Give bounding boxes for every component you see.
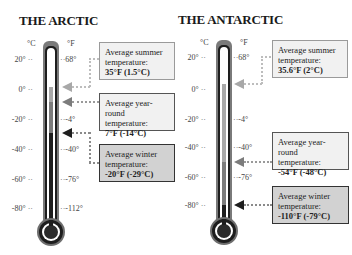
antarctic-winter-connector (244, 204, 272, 206)
arctic-winter-label2: temperature: (105, 159, 169, 169)
antarctic-summer-connector-v (261, 56, 263, 84)
arctic-summer-callout: Average summer temperature: 35°F (1.5°C) (99, 42, 175, 80)
arctic-tick-f-minus4: ··-4° (60, 116, 75, 124)
arctic-summer-connector (72, 86, 90, 88)
arctic-summer-value: 35°F (1.5°C) (105, 67, 169, 77)
antarctic-summer-connector (244, 83, 262, 85)
antarctic-yearround-value: -54°F (-48°C) (278, 167, 343, 177)
arctic-winter-value: -20°F (-29°C) (105, 169, 169, 179)
arctic-yearround-callout: Average year-round temperature: 7°F (-14… (99, 93, 175, 131)
arctic-tick-c-20: 20° ·· (7, 56, 33, 64)
antarctic-tick-c-minus80: -80° ·· (180, 202, 206, 210)
antarctic-celsius-label: °C (200, 38, 209, 47)
arctic-tick-f-minus76: ··-76° (60, 176, 79, 184)
antarctic-fill-summer (222, 84, 226, 163)
antarctic-fill-yearround (222, 162, 226, 206)
arctic-bulb-neck (49, 220, 53, 226)
antarctic-tick-c-minus60: -60° ·· (180, 174, 206, 182)
antarctic-yearround-callout: Average year-round temperature: -54°F (-… (272, 132, 349, 170)
arctic-winter-arrow-icon (62, 128, 72, 138)
antarctic-yearround-arrow-icon (234, 157, 244, 167)
antarctic-winter-callout: Average winter temperature: -110°F (-79°… (272, 186, 349, 224)
arctic-yearround-label: Average year-round (105, 98, 169, 118)
antarctic-tick-c-minus40: -40° ·· (180, 144, 206, 152)
antarctic-winter-arrow-icon (234, 200, 244, 210)
arctic-tick-f-minus40: ··-40° (60, 146, 79, 154)
arctic-tick-f-minus112: ··-112° (60, 205, 83, 213)
antarctic-summer-label: Average summer (278, 45, 342, 55)
antarctic-tick-f-minus76: ··-76° (233, 174, 252, 182)
arctic-bulb-core (44, 225, 58, 239)
arctic-tick-c-0: 0° ·· (7, 86, 33, 94)
arctic-yearround-value: 7°F (-14°C) (105, 128, 169, 138)
antarctic-bulb-neck (222, 219, 226, 225)
arctic-fill-yearround (49, 102, 53, 134)
antarctic-tick-f-68: ··68° (233, 54, 250, 62)
arctic-celsius-label: °C (27, 39, 36, 48)
antarctic-summer-value: 35.6°F (2°C) (278, 65, 342, 75)
antarctic-summer-callout: Average summer temperature: 35.6°F (2°C) (272, 40, 348, 78)
arctic-tick-c-minus40: -40° ·· (7, 146, 33, 154)
antarctic-summer-connector-top (261, 56, 271, 58)
antarctic-winter-label: Average winter (278, 191, 343, 201)
arctic-winter-connector (72, 132, 90, 134)
arctic-winter-connector-v (89, 132, 91, 163)
arctic-yearround-connector (72, 101, 99, 103)
antarctic-yearround-connector (244, 161, 272, 163)
arctic-summer-connector-top (89, 58, 99, 60)
arctic-fill-summer (49, 87, 53, 103)
arctic-tick-c-minus80: -80° ·· (7, 205, 33, 213)
antarctic-yearround-label: Average year-round (278, 137, 343, 157)
antarctic-summer-arrow-icon (234, 79, 244, 89)
arctic-title: THE ARCTIC (19, 13, 98, 29)
arctic-tick-c-minus60: -60° ·· (7, 176, 33, 184)
antarctic-winter-value: -110°F (-79°C) (278, 211, 343, 221)
arctic-yearround-label2: temperature: (105, 118, 169, 128)
arctic-tick-f-68: ··68° (60, 56, 77, 64)
antarctic-summer-label2: temperature: (278, 55, 342, 65)
antarctic-yearround-label2: temperature: (278, 157, 343, 167)
antarctic-tick-c-minus20: -20° ·· (180, 116, 206, 124)
antarctic-tick-c-0: 0° ·· (180, 86, 206, 94)
arctic-summer-arrow-icon (62, 82, 72, 92)
arctic-summer-label2: temperature: (105, 57, 169, 67)
antarctic-winter-label2: temperature: (278, 201, 343, 211)
arctic-summer-connector-v (89, 58, 91, 87)
arctic-winter-label: Average winter (105, 149, 169, 159)
arctic-winter-callout: Average winter temperature: -20°F (-29°C… (99, 144, 175, 182)
arctic-winter-connector-bottom (89, 162, 99, 164)
arctic-tick-c-minus20: -20° ·· (7, 116, 33, 124)
arctic-summer-label: Average summer (105, 47, 169, 57)
antarctic-fahrenheit-label: °F (240, 38, 248, 47)
antarctic-bulb-core (217, 224, 231, 238)
arctic-fahrenheit-label: °F (67, 39, 75, 48)
antarctic-title: THE ANTARCTIC (178, 12, 283, 28)
arctic-fill-winter (49, 133, 53, 228)
antarctic-tick-f-minus4: ··-4° (233, 116, 248, 124)
arctic-yearround-arrow-icon (62, 97, 72, 107)
antarctic-tick-c-20: 20° ·· (180, 54, 206, 62)
antarctic-tick-f-minus40: ··-40° (233, 144, 252, 152)
